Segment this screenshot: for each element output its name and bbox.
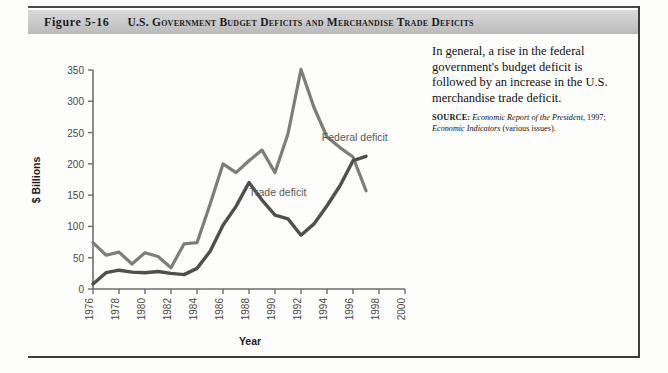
source-plain-1: 1997;	[585, 113, 606, 122]
x-tick-label: 1986	[214, 298, 225, 321]
source-italic-1: Economic Report of the President,	[472, 113, 585, 122]
right-rule-divider	[638, 6, 640, 358]
x-tick-label: 1982	[162, 298, 173, 321]
x-tick-label: 1988	[240, 298, 251, 321]
source-italic-2: Economic Indicators	[432, 124, 500, 133]
caption-text: In general, a rise in the federal govern…	[432, 44, 620, 106]
line-chart: 050100150200250300350 197619781980198219…	[0, 0, 430, 358]
figure-container: Figure 5-16 U.S. Government Budget Defic…	[0, 0, 668, 373]
x-tick-label: 1976	[84, 298, 95, 321]
source-note: SOURCE: Economic Report of the President…	[432, 113, 620, 134]
x-tick-label: 1996	[344, 298, 355, 321]
x-tick-label: 1978	[110, 298, 121, 321]
x-tick-label: 2000	[396, 298, 407, 321]
y-tick-label: 0	[78, 284, 84, 295]
x-tick-label: 1990	[266, 298, 277, 321]
x-tick-label: 1992	[292, 298, 303, 321]
series-line-trade-deficit	[93, 156, 366, 284]
y-axis-tick-labels: 050100150200250300350	[67, 65, 84, 295]
y-tick-label: 250	[67, 128, 84, 139]
chart-plot-area: 050100150200250300350 197619781980198219…	[0, 0, 430, 358]
series-line-federal-deficit	[93, 69, 366, 267]
x-tick-label: 1998	[370, 298, 381, 321]
x-tick-label: 1994	[318, 298, 329, 321]
x-tick-label: 1980	[136, 298, 147, 321]
y-tick-label: 100	[67, 221, 84, 232]
y-axis-title: $ Billions	[30, 157, 42, 204]
source-label: SOURCE:	[432, 113, 470, 122]
y-tick-label: 200	[67, 159, 84, 170]
y-tick-label: 350	[67, 65, 84, 76]
y-tick-label: 50	[73, 253, 85, 264]
federal-deficit-label: Federal deficit	[322, 131, 388, 143]
caption-column: In general, a rise in the federal govern…	[432, 44, 620, 134]
source-plain-2: (various issues).	[500, 124, 555, 133]
x-axis-title: Year	[239, 335, 261, 347]
y-tick-label: 150	[67, 190, 84, 201]
x-tick-label: 1984	[188, 298, 199, 321]
trade-deficit-label: Trade deficit	[249, 186, 306, 198]
x-axis-tick-labels: 1976197819801982198419861988199019921994…	[84, 298, 407, 321]
y-tick-label: 300	[67, 96, 84, 107]
